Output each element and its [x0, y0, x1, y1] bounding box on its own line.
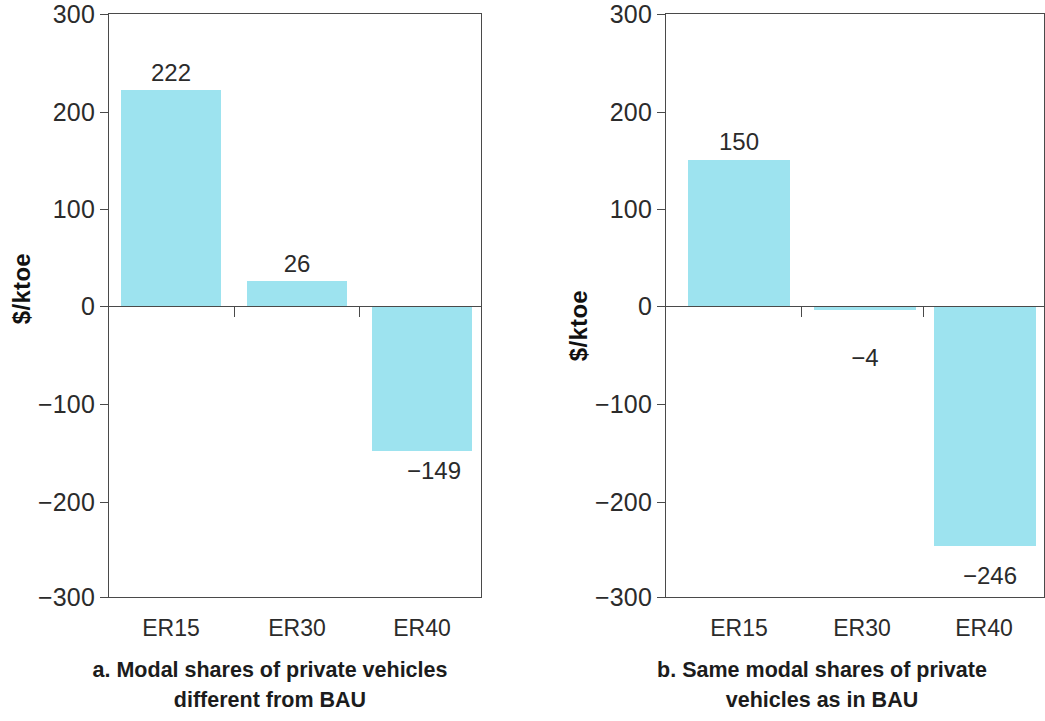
panel-a-value-label-er30: 26	[284, 250, 311, 278]
panel-a-zero-line	[109, 306, 481, 307]
panel-a-bar-er15	[121, 90, 221, 307]
panel-a-ytick-minus100	[100, 404, 109, 405]
panel-b-xtick-1	[801, 306, 802, 317]
panel-b-value-label-er40: −246	[963, 562, 1017, 590]
panel-b-ytick-label-0: 0	[638, 292, 652, 321]
panel-b-ytick-0	[657, 306, 666, 307]
panel-b-ytick-label-200: 200	[610, 97, 652, 126]
panel-b-value-label-er30: −4	[851, 344, 878, 372]
panel-a-ytick-label-300: 300	[53, 0, 95, 29]
panel-a-ytick-300	[100, 14, 109, 15]
panel-a-plot-area: 300 200 100 0 −100 −200 −300	[108, 13, 482, 598]
panel-a-ytick-minus200	[100, 502, 109, 503]
panel-a-caption-line-1: a. Modal shares of private vehicles	[60, 655, 480, 685]
panel-a-ytick-200	[100, 112, 109, 113]
panel-b-ytick-minus100	[657, 404, 666, 405]
panel-a-caption: a. Modal shares of private vehicles diff…	[60, 655, 480, 715]
panel-a-xtick-1	[234, 306, 235, 317]
panel-a-xtick-label-er15: ER15	[142, 615, 200, 642]
panel-a-bar-er40	[372, 306, 472, 451]
panel-a-ytick-label-minus300: −300	[38, 583, 95, 612]
panel-b-bar-er15	[688, 160, 790, 306]
panel-b-y-axis-title: $/ktoe	[565, 290, 593, 361]
panel-b-ytick-300	[657, 14, 666, 15]
panel-b-caption: b. Same modal shares of private vehicles…	[622, 655, 1022, 715]
panel-a: $/ktoe 300 200 100 0 −100 −200 −300	[0, 0, 512, 721]
panel-b-xtick-label-er30: ER30	[833, 615, 891, 642]
panel-a-ytick-label-minus100: −100	[38, 390, 95, 419]
panel-b-ytick-200	[657, 112, 666, 113]
panel-b-caption-line-1: b. Same modal shares of private	[622, 655, 1022, 685]
panel-a-value-label-er15: 222	[151, 59, 191, 87]
panel-b-zero-line	[666, 306, 1044, 307]
panel-a-y-axis-title: $/ktoe	[8, 253, 36, 324]
panel-b-caption-line-2: vehicles as in BAU	[622, 685, 1022, 715]
panel-b-ytick-label-300: 300	[610, 0, 652, 29]
panel-b: $/ktoe 300 200 100 0 −100 −200 −300	[512, 0, 1027, 721]
panel-b-plot-area: 300 200 100 0 −100 −200 −300	[665, 13, 1045, 598]
panel-b-bar-er40	[934, 306, 1036, 546]
panel-b-ytick-minus300	[657, 597, 666, 598]
panel-b-ytick-100	[657, 209, 666, 210]
panel-b-ytick-label-100: 100	[610, 195, 652, 224]
panel-b-xtick-label-er15: ER15	[710, 615, 768, 642]
panel-a-xtick-label-er30: ER30	[268, 615, 326, 642]
panel-b-ytick-minus200	[657, 502, 666, 503]
panel-b-ytick-label-minus200: −200	[595, 487, 652, 516]
panel-b-ytick-label-minus300: −300	[595, 583, 652, 612]
panel-a-ytick-100	[100, 209, 109, 210]
panel-b-xtick-2	[923, 306, 924, 317]
panel-a-xtick-2	[359, 306, 360, 317]
panel-a-caption-line-2: different from BAU	[60, 685, 480, 715]
panel-b-xtick-label-er40: ER40	[955, 615, 1013, 642]
panel-b-ytick-label-minus100: −100	[595, 390, 652, 419]
panel-a-ytick-minus300	[100, 597, 109, 598]
panel-a-ytick-0	[100, 306, 109, 307]
panel-a-bar-er30	[247, 281, 347, 306]
panel-b-value-label-er15: 150	[719, 128, 759, 156]
panel-a-ytick-label-0: 0	[81, 292, 95, 321]
panel-a-value-label-er40: −149	[407, 457, 461, 485]
panel-a-ytick-label-minus200: −200	[38, 487, 95, 516]
panel-a-ytick-label-100: 100	[53, 195, 95, 224]
panel-a-xtick-label-er40: ER40	[393, 615, 451, 642]
panel-a-ytick-label-200: 200	[53, 97, 95, 126]
